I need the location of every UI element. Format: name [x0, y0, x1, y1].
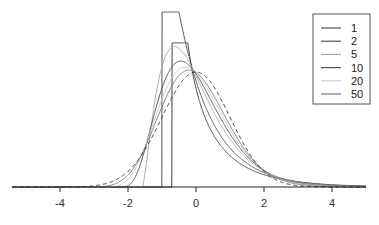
legend-label: 10: [351, 62, 363, 74]
x-tick-label: 4: [329, 197, 335, 209]
x-axis-ticks: -4-2024: [55, 187, 335, 209]
x-tick-label: -4: [55, 197, 65, 209]
legend-label: 50: [351, 88, 363, 100]
legend-label: 20: [351, 75, 363, 87]
legend-label: 1: [351, 22, 357, 34]
x-tick-label: 0: [193, 197, 199, 209]
x-tick-label: -2: [123, 197, 133, 209]
chart: -4-2024 125102050: [0, 0, 379, 225]
legend-label: 2: [351, 35, 357, 47]
x-tick-label: 2: [261, 197, 267, 209]
legend: 125102050: [313, 14, 370, 104]
legend-label: 5: [351, 48, 357, 60]
